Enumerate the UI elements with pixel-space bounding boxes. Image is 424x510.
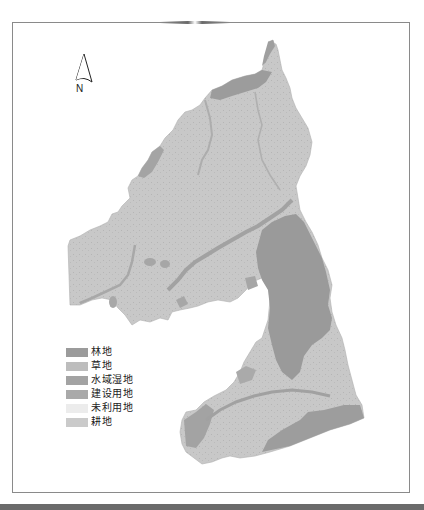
legend-swatch [66, 418, 88, 427]
bottom-bar [0, 504, 424, 510]
legend: 林地 草地 水域湿地 建设用地 未利用地 耕地 [66, 345, 133, 429]
legend-swatch [66, 404, 88, 413]
land-use-map [0, 0, 424, 510]
legend-item-forest: 林地 [66, 345, 133, 359]
legend-item-unused: 未利用地 [66, 401, 133, 415]
legend-swatch [66, 390, 88, 399]
legend-item-water: 水域湿地 [66, 373, 133, 387]
legend-label: 建设用地 [91, 387, 133, 401]
north-label: N [76, 83, 83, 94]
legend-swatch [66, 362, 88, 371]
legend-label: 林地 [91, 345, 112, 359]
pond-1 [144, 258, 156, 266]
legend-swatch [66, 376, 88, 385]
pond-2 [160, 260, 170, 268]
pond-3 [109, 296, 117, 308]
legend-label: 水域湿地 [91, 373, 133, 387]
legend-label: 耕地 [91, 415, 112, 429]
legend-item-grassland: 草地 [66, 359, 133, 373]
legend-item-farmland: 耕地 [66, 415, 133, 429]
legend-item-construction: 建设用地 [66, 387, 133, 401]
legend-label: 未利用地 [91, 401, 133, 415]
legend-swatch [66, 348, 88, 357]
legend-label: 草地 [91, 359, 112, 373]
